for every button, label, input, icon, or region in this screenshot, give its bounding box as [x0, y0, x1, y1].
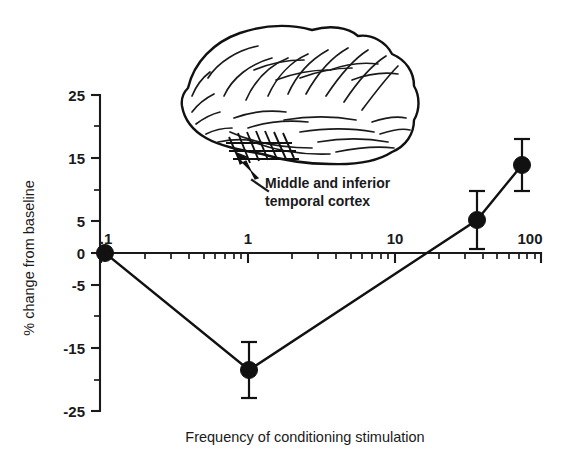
y-tick-label-25: 25 [68, 87, 85, 104]
region-annotation-line2: temporal cortex [265, 193, 370, 209]
y-tick-label-0: 0 [77, 245, 85, 262]
x-tick-label-10: 10 [387, 230, 404, 247]
y-tick-label-neg5: -5 [72, 277, 85, 294]
brain-outline-path [182, 26, 419, 164]
figure-root: Middle and inferior temporal cortex [0, 0, 574, 457]
data-point-3 [514, 157, 531, 174]
brain-inset-illustration [182, 26, 419, 191]
y-tick-label-neg25: -25 [63, 403, 85, 420]
y-tick-label-neg15: -15 [63, 340, 85, 357]
y-tick-label-15: 15 [68, 150, 85, 167]
data-point-2 [469, 212, 486, 229]
x-tick-label-1: 1 [244, 230, 252, 247]
x-axis-title: Frequency of conditioning stimulation [185, 429, 424, 445]
data-point-1 [241, 362, 258, 379]
y-tick-label-5: 5 [77, 213, 85, 230]
chart-canvas: Middle and inferior temporal cortex [0, 0, 574, 457]
y-axis: 25 15 5 0 -5 -15 -25 [63, 87, 100, 420]
x-axis-major-ticks [101, 253, 541, 263]
x-tick-label-100: 100 [517, 230, 542, 247]
data-point-0 [97, 245, 114, 262]
region-annotation-line1: Middle and inferior [265, 175, 391, 191]
y-axis-title: % change from baseline [21, 180, 37, 336]
